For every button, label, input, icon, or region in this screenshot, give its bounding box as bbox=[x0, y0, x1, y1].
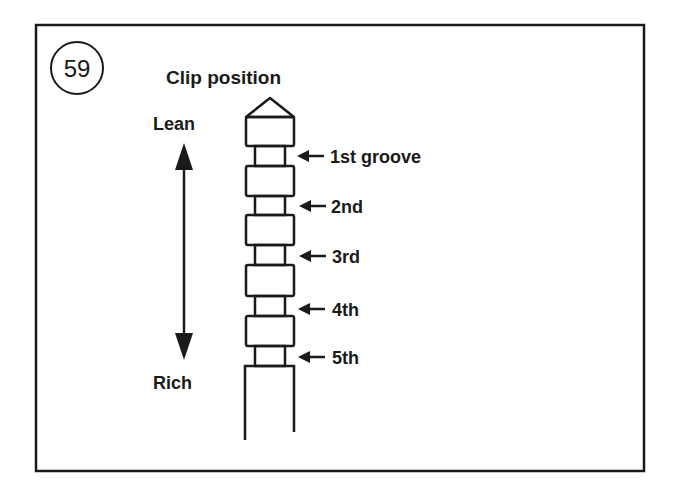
jet-needle bbox=[245, 98, 294, 440]
arrow-down-head-icon bbox=[175, 333, 193, 360]
figure-title: Clip position bbox=[166, 67, 281, 88]
groove-label: 3rd bbox=[332, 247, 360, 267]
groove-callout: 3rd bbox=[299, 247, 360, 267]
needle-segment bbox=[246, 215, 294, 245]
groove-callout: 1st groove bbox=[297, 147, 421, 167]
lean-label: Lean bbox=[153, 114, 195, 134]
lean-rich-arrow bbox=[175, 143, 193, 360]
groove-2 bbox=[255, 196, 285, 215]
groove-callout: 2nd bbox=[299, 197, 363, 217]
figure-number-badge: 59 bbox=[51, 42, 103, 94]
groove-callout: 5th bbox=[298, 348, 359, 368]
needle-segment bbox=[246, 265, 294, 296]
needle-tip bbox=[246, 98, 294, 117]
figure-number: 59 bbox=[64, 55, 91, 82]
groove-3 bbox=[255, 245, 285, 265]
needle-segment bbox=[246, 166, 294, 196]
needle-stem bbox=[245, 366, 294, 440]
needle-segment bbox=[246, 316, 294, 346]
groove-label: 2nd bbox=[331, 197, 363, 217]
groove-label: 5th bbox=[332, 348, 359, 368]
needle-clip-diagram: 59 Clip position Lean Rich 1st groove 2n… bbox=[0, 0, 677, 495]
arrow-up-head-icon bbox=[175, 143, 193, 170]
groove-callout: 4th bbox=[298, 300, 359, 320]
groove-5 bbox=[255, 346, 285, 366]
needle-segment bbox=[246, 117, 294, 146]
groove-label: 4th bbox=[332, 300, 359, 320]
groove-1 bbox=[255, 146, 285, 166]
groove-label: 1st groove bbox=[330, 147, 421, 167]
rich-label: Rich bbox=[153, 373, 192, 393]
groove-4 bbox=[255, 296, 285, 316]
